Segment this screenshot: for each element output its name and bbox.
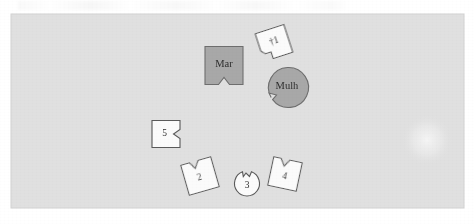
map-figure-canvas: Mar †1 Mulh 5 2 3 4 xyxy=(0,0,474,224)
shape-mulh[interactable]: Mulh xyxy=(269,67,309,107)
shape-five-label: 5 xyxy=(162,128,167,138)
panel-light-spot xyxy=(401,114,453,166)
shape-mar-label: Mar xyxy=(215,58,233,69)
figure-root: Mar †1 Mulh 5 2 3 4 xyxy=(0,0,474,224)
shape-mulh-label: Mulh xyxy=(276,80,300,91)
shape-three[interactable]: 3 xyxy=(234,172,259,196)
shape-three-label: 3 xyxy=(245,180,250,190)
